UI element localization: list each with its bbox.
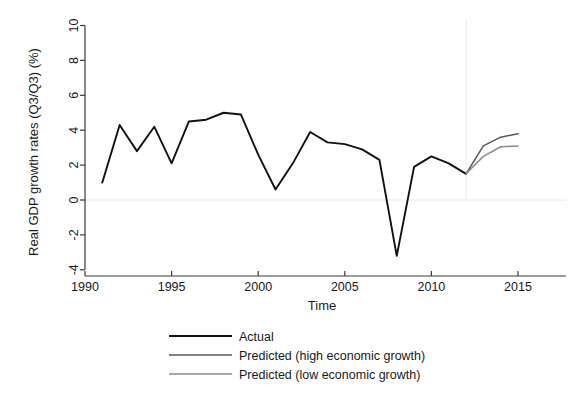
x-tick-label: 2010 (417, 280, 445, 294)
y-axis-label: Real GDP growth rates (Q3/Q3) (%) (26, 48, 41, 256)
data-series (102, 113, 518, 256)
series-line-actual (102, 113, 466, 256)
chart-legend: ActualPredicted (high economic growth)Pr… (169, 330, 425, 382)
y-tick-label: 8 (67, 57, 81, 64)
y-tick-label: 10 (67, 19, 81, 33)
x-tick-label: 1990 (71, 280, 99, 294)
x-axis-label: Time (308, 298, 336, 313)
legend-item-actual: Actual (169, 330, 274, 344)
chart-canvas: -4-20246810 199019952000200520102015 Rea… (0, 0, 572, 398)
legend-label: Actual (239, 330, 274, 344)
y-tick-label: 0 (67, 196, 81, 203)
y-tick-label: -4 (67, 264, 81, 275)
gdp-growth-figure: -4-20246810 199019952000200520102015 Rea… (0, 0, 572, 398)
legend-item-predicted-high: Predicted (high economic growth) (169, 349, 425, 363)
y-axis-title: Real GDP growth rates (Q3/Q3) (%) (26, 48, 41, 256)
x-tick-label: 1995 (158, 280, 186, 294)
y-tick-label: 6 (67, 92, 81, 99)
x-axis-ticks: 199019952000200520102015 (71, 271, 532, 294)
x-tick-label: 2015 (504, 280, 532, 294)
x-tick-label: 2005 (331, 280, 359, 294)
series-line-predicted-high (466, 134, 518, 174)
legend-label: Predicted (low economic growth) (239, 368, 420, 382)
legend-item-predicted-low: Predicted (low economic growth) (169, 368, 420, 382)
gridlines (85, 20, 566, 200)
y-axis-ticks: -4-20246810 (67, 19, 85, 276)
x-tick-label: 2000 (244, 280, 272, 294)
y-tick-label: 2 (67, 162, 81, 169)
y-tick-label: -2 (67, 229, 81, 240)
legend-label: Predicted (high economic growth) (239, 349, 425, 363)
y-tick-label: 4 (67, 127, 81, 134)
x-axis-title: Time (308, 298, 336, 313)
